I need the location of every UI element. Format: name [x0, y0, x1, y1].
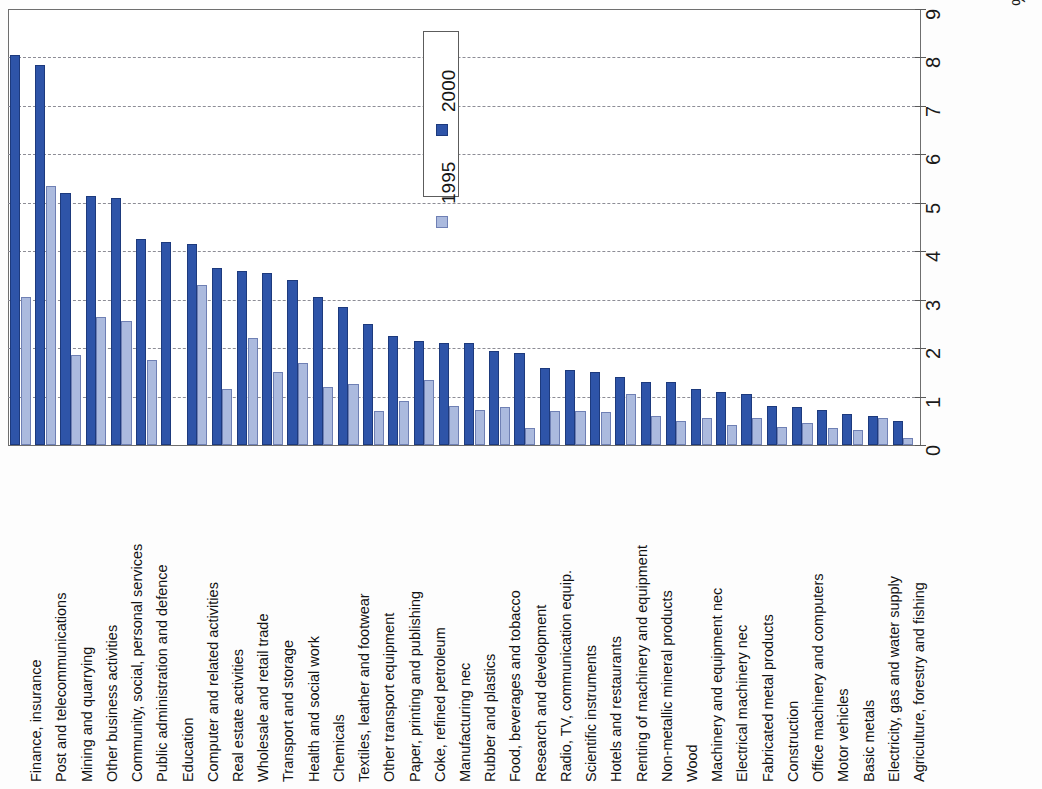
- bar-2000: [514, 353, 524, 445]
- bar-group: [767, 10, 792, 445]
- bar-1995: [46, 186, 56, 445]
- axis-tick-label-3: 3: [922, 271, 945, 311]
- bar-2000: [161, 242, 171, 445]
- bar-group: [868, 10, 893, 445]
- category-label: Real estate activities: [231, 649, 246, 782]
- category-label: Public administration and defence: [155, 564, 170, 782]
- bar-2000: [187, 244, 197, 445]
- bar-1995: [601, 412, 611, 445]
- legend-label-1995: 1995: [438, 162, 460, 204]
- bar-2000: [414, 341, 424, 445]
- bar-2000: [136, 239, 146, 445]
- bar-group: [86, 10, 111, 445]
- bar-2000: [641, 382, 651, 445]
- bar-group: [792, 10, 817, 445]
- bar-group: [691, 10, 716, 445]
- bar-group: [10, 10, 35, 445]
- category-label: Non-metallic mineral products: [660, 590, 675, 782]
- category-label: Wood: [685, 744, 700, 782]
- bar-2000: [212, 268, 222, 445]
- category-label: Community, social, personal services: [130, 544, 145, 782]
- bar-group: [313, 10, 338, 445]
- bar-1995: [626, 394, 636, 445]
- bar-group: [212, 10, 237, 445]
- bar-group: [666, 10, 691, 445]
- category-label: Mining and quarrying: [80, 647, 95, 782]
- category-label: Coke, refined petroleum: [433, 627, 448, 782]
- category-label: Research and development: [534, 605, 549, 782]
- bar-group: [716, 10, 741, 445]
- bar-group: [641, 10, 666, 445]
- bar-2000: [287, 280, 297, 445]
- axis-tick-label-0: 0: [922, 416, 945, 456]
- bar-1995: [71, 355, 81, 445]
- bar-2000: [565, 370, 575, 445]
- chart-legend: 2000 1995: [423, 31, 459, 197]
- bar-group: [540, 10, 565, 445]
- bar-group: [741, 10, 766, 445]
- category-label: Paper, printing and publishing: [408, 591, 423, 782]
- bar-2000: [313, 297, 323, 445]
- category-label: Education: [181, 718, 196, 783]
- bar-1995: [878, 418, 888, 445]
- category-label: Electricity, gas and water supply: [887, 576, 902, 782]
- legend-swatch-1995: [436, 216, 448, 228]
- category-label: Machinery and equipment nec: [710, 588, 725, 782]
- bar-1995: [727, 425, 737, 445]
- axis-unit-label: %: [1008, 0, 1030, 6]
- bar-group: [338, 10, 363, 445]
- bar-1995: [777, 427, 787, 445]
- bar-group: [893, 10, 918, 445]
- bar-group: [262, 10, 287, 445]
- bar-group: [565, 10, 590, 445]
- bar-2000: [893, 421, 903, 445]
- category-label: Other transport equipment: [382, 613, 397, 782]
- bar-1995: [525, 428, 535, 445]
- bar-2000: [60, 193, 70, 445]
- bar-1995: [702, 418, 712, 445]
- bar-group: [161, 10, 186, 445]
- bar-series-container: [9, 10, 919, 445]
- category-label: Fabricated metal products: [761, 614, 776, 782]
- bar-1995: [348, 384, 358, 445]
- bar-2000: [489, 351, 499, 445]
- axis-tick-label-2: 2: [922, 319, 945, 359]
- bar-group: [842, 10, 867, 445]
- category-label: Manufacturing nec: [458, 663, 473, 782]
- bar-2000: [10, 55, 20, 445]
- category-label: Transport and storage: [281, 640, 296, 782]
- bar-2000: [817, 410, 827, 445]
- category-label: Scientific instruments: [584, 645, 599, 782]
- bar-1995: [575, 411, 585, 445]
- category-label: Computer and related activities: [206, 582, 221, 782]
- bar-2000: [716, 392, 726, 445]
- bar-1995: [121, 321, 131, 445]
- bar-1995: [500, 407, 510, 445]
- bar-1995: [752, 418, 762, 445]
- bar-group: [187, 10, 212, 445]
- bar-1995: [903, 438, 913, 445]
- bar-2000: [262, 273, 272, 445]
- value-axis-line: [920, 9, 921, 446]
- bar-1995: [374, 411, 384, 445]
- category-label: Motor vehicles: [836, 689, 851, 782]
- bar-1995: [449, 406, 459, 445]
- bar-2000: [338, 307, 348, 445]
- bar-1995: [828, 428, 838, 445]
- bar-1995: [424, 380, 434, 445]
- category-label: Rubber and plastics: [483, 654, 498, 782]
- bar-group: [111, 10, 136, 445]
- category-label: Finance, insurance: [29, 659, 44, 782]
- bar-2000: [741, 394, 751, 445]
- category-label: Post and telecommunications: [54, 593, 69, 782]
- bar-group: [388, 10, 413, 445]
- bar-2000: [439, 343, 449, 445]
- bar-group: [615, 10, 640, 445]
- category-label: Office machinery and computers: [811, 574, 826, 782]
- bar-2000: [111, 198, 121, 445]
- bar-1995: [399, 401, 409, 445]
- category-label: Basic metals: [862, 700, 877, 782]
- bar-2000: [767, 406, 777, 445]
- axis-tick-label-7: 7: [922, 77, 945, 117]
- bar-group: [60, 10, 85, 445]
